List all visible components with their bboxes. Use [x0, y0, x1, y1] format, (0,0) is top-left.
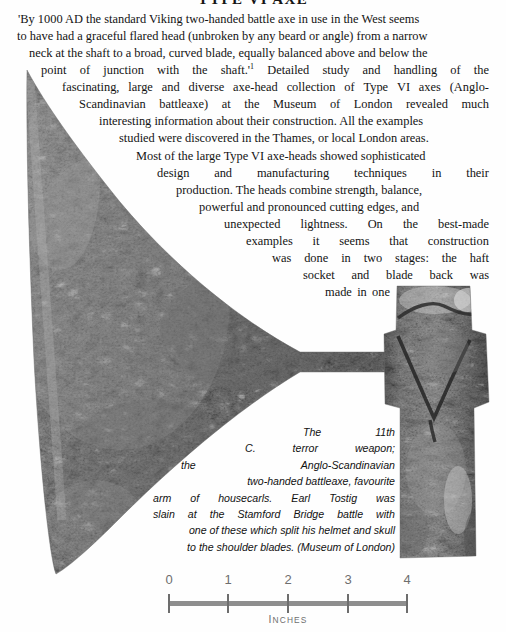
caption-line: to the shoulder blades. (Museum of Londo…	[153, 539, 395, 555]
text-line: point of junction with the shaft.'1 Deta…	[41, 63, 489, 78]
scale-tick-4	[406, 594, 408, 613]
scale-tick-3	[347, 594, 349, 613]
caption-line: theAnglo-Scandinavian	[153, 457, 395, 473]
text-line: socket and blade back was	[303, 268, 489, 283]
text-line: 'By 1000 AD the standard Viking two-hand…	[18, 12, 419, 27]
text-line: neck at the shaft to a broad, curved bla…	[29, 46, 427, 61]
caption-line: C.terrorweapon;	[153, 440, 395, 456]
text-line: studied were discovered in the Thames, o…	[119, 131, 429, 146]
book-page: TYPE VI AXE 'By 1000 AD the standard Vik…	[0, 0, 506, 632]
scale-label-1: 1	[224, 572, 231, 587]
text-line: made in one	[325, 285, 390, 300]
text-line: unexpected lightness. On the best-made	[224, 217, 489, 232]
text-line: interesting information about their cons…	[99, 114, 423, 129]
scale-label-2: 2	[284, 572, 291, 587]
text-line: production. The heads combine strength, …	[176, 183, 422, 198]
caption-line: one of these which split his helmet and …	[153, 522, 395, 538]
text-line: fascinating, large and diverse axe-head …	[62, 80, 489, 95]
text-line: powerful and pronounced cutting edges, a…	[199, 200, 419, 215]
figure-caption: The11th C.terrorweapon; theAnglo-Scandin…	[153, 424, 395, 555]
scale-label-3: 3	[344, 572, 351, 587]
scale-unit-label: INCHES	[160, 613, 416, 625]
caption-line: The11th	[153, 424, 395, 440]
text-line: design and manufacturing techniques in t…	[157, 166, 489, 181]
scale-tick-2	[287, 594, 289, 613]
text-line: examples it seems that construction	[246, 234, 489, 249]
text-line: Most of the large Type VI axe-heads show…	[136, 149, 426, 164]
scale-label-4: 4	[403, 572, 410, 587]
scale-unit-rest: NCHES	[273, 615, 308, 625]
text-line: was done in two stages: the haft	[272, 251, 489, 266]
scale-label-0: 0	[165, 572, 172, 587]
scale-tick-0	[168, 594, 170, 613]
scale-bar: 0 1 2 3 4 INCHES	[160, 575, 420, 627]
scale-tick-1	[227, 594, 229, 613]
caption-line: slainatthe StamfordBridgebattle with	[153, 506, 395, 522]
footnote-marker: 1	[250, 62, 254, 71]
caption-line: armofhousecarls. EarlTostigwas	[153, 490, 395, 506]
text-line: Scandinavian battleaxe) at the Museum of…	[79, 97, 489, 112]
text-line: to have had a graceful flared head (unbr…	[17, 29, 427, 44]
caption-line: two-handed battleaxe, favourite	[153, 473, 395, 489]
page-title: TYPE VI AXE	[0, 0, 506, 8]
